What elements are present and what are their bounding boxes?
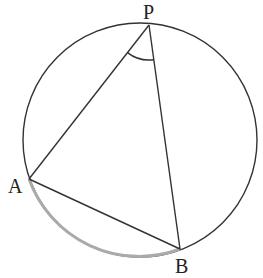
segment-AB xyxy=(29,179,180,249)
label-B: B xyxy=(175,255,188,277)
label-A: A xyxy=(8,175,23,197)
inscribed-angle-diagram: P A B xyxy=(0,0,263,278)
label-P: P xyxy=(143,1,154,23)
segment-PB xyxy=(149,25,180,249)
arc-AB-highlight xyxy=(29,179,180,256)
segment-PA xyxy=(29,25,149,179)
angle-mark-P xyxy=(128,53,154,60)
